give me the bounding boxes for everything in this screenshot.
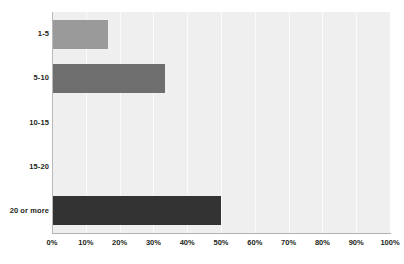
category-label: 15-20 bbox=[1, 163, 49, 171]
x-tick-label: 0% bbox=[47, 239, 58, 247]
x-tick-label: 100% bbox=[380, 239, 399, 247]
x-tick-label: 50% bbox=[213, 239, 228, 247]
x-tick-label: 40% bbox=[180, 239, 195, 247]
bar-1-5[interactable] bbox=[52, 20, 108, 49]
category-label: 10-15 bbox=[1, 119, 49, 127]
x-tick-label: 10% bbox=[78, 239, 93, 247]
x-tick-label: 20% bbox=[112, 239, 127, 247]
x-tick-label: 90% bbox=[349, 239, 364, 247]
category-label: 20 or more bbox=[1, 207, 49, 215]
x-tick-label: 30% bbox=[146, 239, 161, 247]
y-axis-category-labels: 1-55-1010-1515-2020 or more bbox=[0, 12, 49, 233]
x-tick-label: 60% bbox=[247, 239, 262, 247]
bar-row bbox=[52, 108, 390, 137]
x-axis-tick-labels: 0%10%20%30%40%50%60%70%80%90%100% bbox=[0, 239, 404, 253]
bar-5-10[interactable] bbox=[52, 64, 165, 93]
y-axis-line bbox=[52, 12, 53, 233]
bar-row bbox=[52, 20, 390, 49]
bar-chart: 1-55-1010-1515-2020 or more 0%10%20%30%4… bbox=[0, 0, 404, 264]
category-label: 5-10 bbox=[1, 74, 49, 82]
x-axis-line bbox=[52, 233, 391, 234]
x-tick-label: 80% bbox=[315, 239, 330, 247]
x-tick-label: 70% bbox=[281, 239, 296, 247]
bar-20-or-more[interactable] bbox=[52, 196, 221, 225]
plot-area bbox=[52, 12, 390, 233]
bar-row bbox=[52, 196, 390, 225]
bar-row bbox=[52, 64, 390, 93]
category-label: 1-5 bbox=[1, 30, 49, 38]
bar-row bbox=[52, 152, 390, 181]
